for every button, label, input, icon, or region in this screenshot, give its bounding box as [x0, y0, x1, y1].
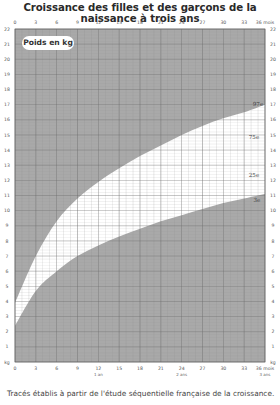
y-tick-right: 15: [270, 133, 276, 138]
x-tick-bottom: 36 mois: [256, 366, 275, 371]
y-axis-badge: Poids en kg: [22, 36, 74, 50]
x-tick-bottom: 0: [14, 366, 17, 371]
y-tick-left: 20: [4, 57, 10, 62]
percentile-label-3e: 3e: [254, 197, 262, 203]
y-tick-left: 5: [6, 284, 9, 289]
y-tick-right: kg: [270, 360, 276, 365]
x-tick-bottom: 33: [241, 366, 247, 371]
x-tick-top: 0: [14, 20, 17, 25]
y-tick-left: 14: [4, 148, 10, 153]
x-tick-bottom: 27: [200, 366, 206, 371]
growth-chart: kgkg112233445566778899101011111212131314…: [0, 0, 280, 390]
y-tick-left: 1: [6, 344, 9, 349]
percentile-label-75e: 75e: [249, 134, 260, 140]
y-tick-left: kg: [4, 360, 10, 365]
y-tick-right: 6: [272, 269, 275, 274]
y-tick-left: 17: [4, 102, 10, 107]
y-tick-right: 7: [272, 254, 275, 259]
y-tick-left: 22: [4, 27, 10, 32]
y-tick-right: 9: [272, 223, 275, 228]
percentile-label-25e: 25e: [249, 172, 260, 178]
y-tick-right: 4: [272, 299, 275, 304]
y-tick-right: 19: [270, 72, 276, 77]
x-tick-bottom: 3: [34, 366, 37, 371]
y-tick-left: 8: [6, 239, 9, 244]
x-tick-top: 21: [158, 20, 164, 25]
y-tick-right: 8: [272, 239, 275, 244]
y-tick-right: 21: [270, 42, 276, 47]
chart-footer: Tracés établis à partir de l'étude séque…: [7, 389, 274, 398]
x-tick-bottom: 6: [55, 366, 58, 371]
y-tick-left: 7: [6, 254, 9, 259]
x-tick-bottom: 21: [158, 366, 164, 371]
y-tick-left: 10: [4, 208, 10, 213]
y-tick-left: 16: [4, 117, 10, 122]
y-tick-left: 6: [6, 269, 9, 274]
x-sub-label: 1 an: [94, 372, 103, 377]
x-sub-label: 2 ans: [176, 372, 187, 377]
x-tick-top: 6: [55, 20, 58, 25]
x-tick-bottom: 24: [179, 366, 185, 371]
x-tick-bottom: 18: [137, 366, 143, 371]
x-tick-top: 24: [179, 20, 185, 25]
y-tick-left: 4: [6, 299, 9, 304]
y-tick-left: 15: [4, 133, 10, 138]
x-sub-label: 3 ans: [260, 372, 271, 377]
y-tick-left: 13: [4, 163, 10, 168]
y-tick-right: 1: [272, 344, 275, 349]
y-tick-left: 9: [6, 223, 9, 228]
y-tick-right: 18: [270, 87, 276, 92]
y-tick-right: 11: [270, 193, 276, 198]
y-tick-left: 3: [6, 314, 9, 319]
y-tick-right: 12: [270, 178, 276, 183]
y-tick-right: 16: [270, 117, 276, 122]
y-tick-left: 21: [4, 42, 10, 47]
x-tick-bottom: 9: [76, 366, 79, 371]
y-tick-right: 20: [270, 57, 276, 62]
y-tick-left: 2: [6, 329, 9, 334]
y-tick-right: 2: [272, 329, 275, 334]
y-tick-right: 3: [272, 314, 275, 319]
x-tick-bottom: 12: [95, 366, 101, 371]
x-tick-top: 15: [116, 20, 122, 25]
x-tick-top: 9: [76, 20, 79, 25]
y-tick-left: 12: [4, 178, 10, 183]
x-tick-bottom: 15: [116, 366, 122, 371]
y-tick-right: 22: [270, 27, 276, 32]
x-tick-top: 12: [95, 20, 101, 25]
x-tick-top: 27: [200, 20, 206, 25]
x-tick-top: 30: [220, 20, 226, 25]
y-tick-right: 17: [270, 102, 276, 107]
y-tick-left: 18: [4, 87, 10, 92]
y-tick-left: 11: [4, 193, 10, 198]
y-tick-right: 10: [270, 208, 276, 213]
percentile-label-97e: 97e: [253, 101, 264, 107]
x-tick-top: 33: [241, 20, 247, 25]
y-tick-right: 14: [270, 148, 276, 153]
y-tick-right: 5: [272, 284, 275, 289]
y-tick-right: 13: [270, 163, 276, 168]
x-tick-top: 3: [34, 20, 37, 25]
x-tick-top: 18: [137, 20, 143, 25]
x-tick-bottom: 30: [220, 366, 226, 371]
y-tick-left: 19: [4, 72, 10, 77]
x-tick-top: 36 mois: [256, 20, 275, 25]
